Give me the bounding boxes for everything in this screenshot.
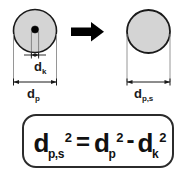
dimension-label-dk: dk (34, 58, 46, 74)
dp-base: d (27, 86, 35, 101)
dimension-label-dps: dp,s (134, 85, 153, 101)
formula-minus: - (124, 126, 138, 154)
rhs2-base: d (138, 128, 153, 158)
dimension-arrow-dps-right (165, 80, 171, 84)
dimension-arrow-dp-left (14, 80, 20, 84)
lhs-base: d (34, 128, 49, 158)
dk-base: d (34, 59, 42, 74)
dp-subscript: p (35, 94, 40, 103)
dimension-arrow-dk-left (31, 53, 35, 57)
formula-box: dp,s2 = dp2 - dk2 (22, 114, 174, 168)
dimension-arrow-dp-right (51, 80, 57, 84)
left-particle-core (31, 26, 38, 33)
formula-term-lhs: dp,s2 (34, 128, 72, 159)
rhs1-subscript: p (108, 147, 115, 161)
dk-subscript: k (42, 67, 46, 76)
formula-equals: = (72, 128, 94, 156)
rhs1-superscript: 2 (116, 130, 123, 145)
rhs2-superscript: 2 (159, 130, 166, 145)
right-particle-outline (127, 10, 170, 53)
dimension-label-dp: dp (27, 85, 40, 101)
dimension-arrow-dk-right (35, 53, 39, 57)
dps-subscript: p,s (142, 94, 153, 103)
arrow-icon (71, 22, 104, 42)
figure-canvas: dk dp dp,s dp,s2 = dp2 - dk2 (0, 0, 192, 172)
rhs2-subscript: k (152, 147, 158, 161)
formula-term-rhs-second: dk2 (138, 128, 167, 159)
formula-expression: dp,s2 = dp2 - dk2 (24, 116, 176, 170)
dimension-arrow-dps-left (127, 80, 133, 84)
lhs-superscript: 2 (65, 130, 72, 145)
dps-base: d (134, 86, 142, 101)
lhs-subscript: p,s (48, 147, 64, 161)
formula-term-rhs-first: dp2 (94, 128, 123, 159)
